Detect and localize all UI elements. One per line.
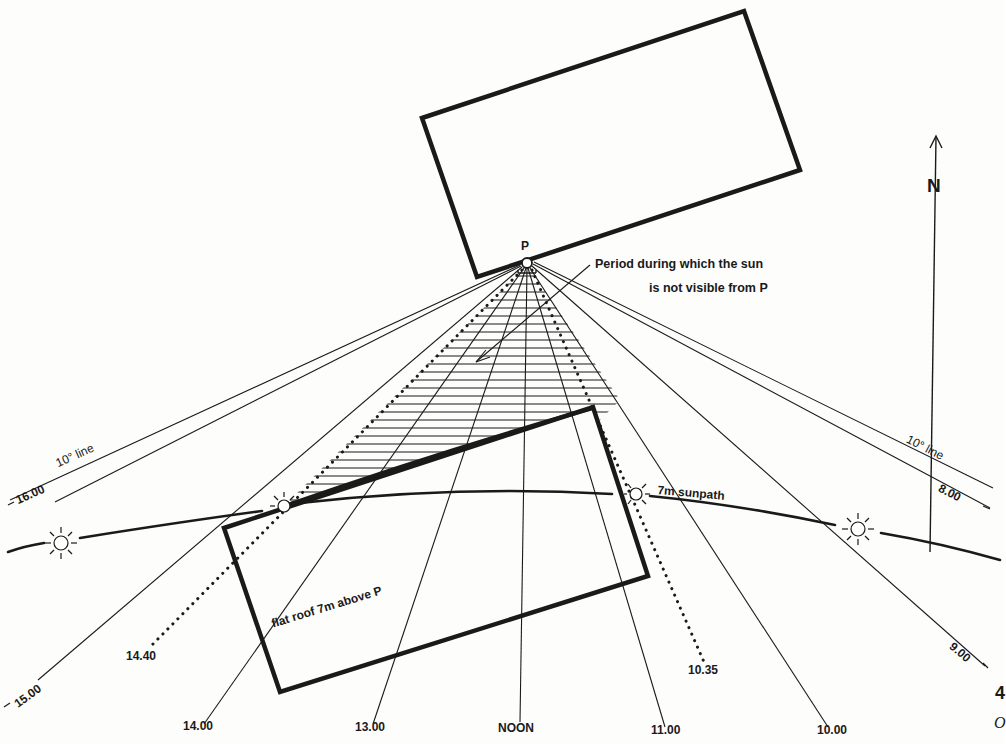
- time-label-1400: 14.00: [183, 720, 213, 732]
- north-label: N: [927, 176, 941, 195]
- point-p-label: P: [521, 240, 529, 252]
- time-label-1440: 14.40: [126, 650, 156, 662]
- time-label-noon: NOON: [498, 722, 534, 734]
- page-letter-fragment: O: [994, 715, 1006, 731]
- sun-icon: [45, 527, 77, 559]
- time-label-1000: 10.00: [817, 724, 847, 736]
- flat-roof-building-outline: [224, 407, 648, 692]
- upper-building-outline: [422, 11, 800, 277]
- annotation-line-1: Period during which the sun: [595, 258, 763, 271]
- annotation-line-2: is not visible from P: [649, 282, 768, 295]
- sun-icon: [624, 484, 650, 504]
- time-label-1035: 10.35: [688, 664, 718, 676]
- time-line-0900: [532, 266, 985, 666]
- sunpath-7m: [8, 491, 1000, 560]
- time-label-1100: 11.00: [651, 724, 680, 736]
- label-ticks: [4, 502, 990, 707]
- time-line-1300: [373, 268, 526, 724]
- shade-limit-lines: [150, 270, 704, 662]
- shade-hatching: [200, 276, 700, 500]
- time-label-1300: 13.00: [355, 721, 385, 733]
- sun-icon: [842, 513, 874, 545]
- time-line-0800: [533, 264, 990, 508]
- time-line-noon: [520, 268, 527, 722]
- page-number-fragment: 4: [995, 684, 1005, 702]
- dotted-line-1440: [150, 270, 522, 647]
- time-line-1100: [528, 268, 665, 727]
